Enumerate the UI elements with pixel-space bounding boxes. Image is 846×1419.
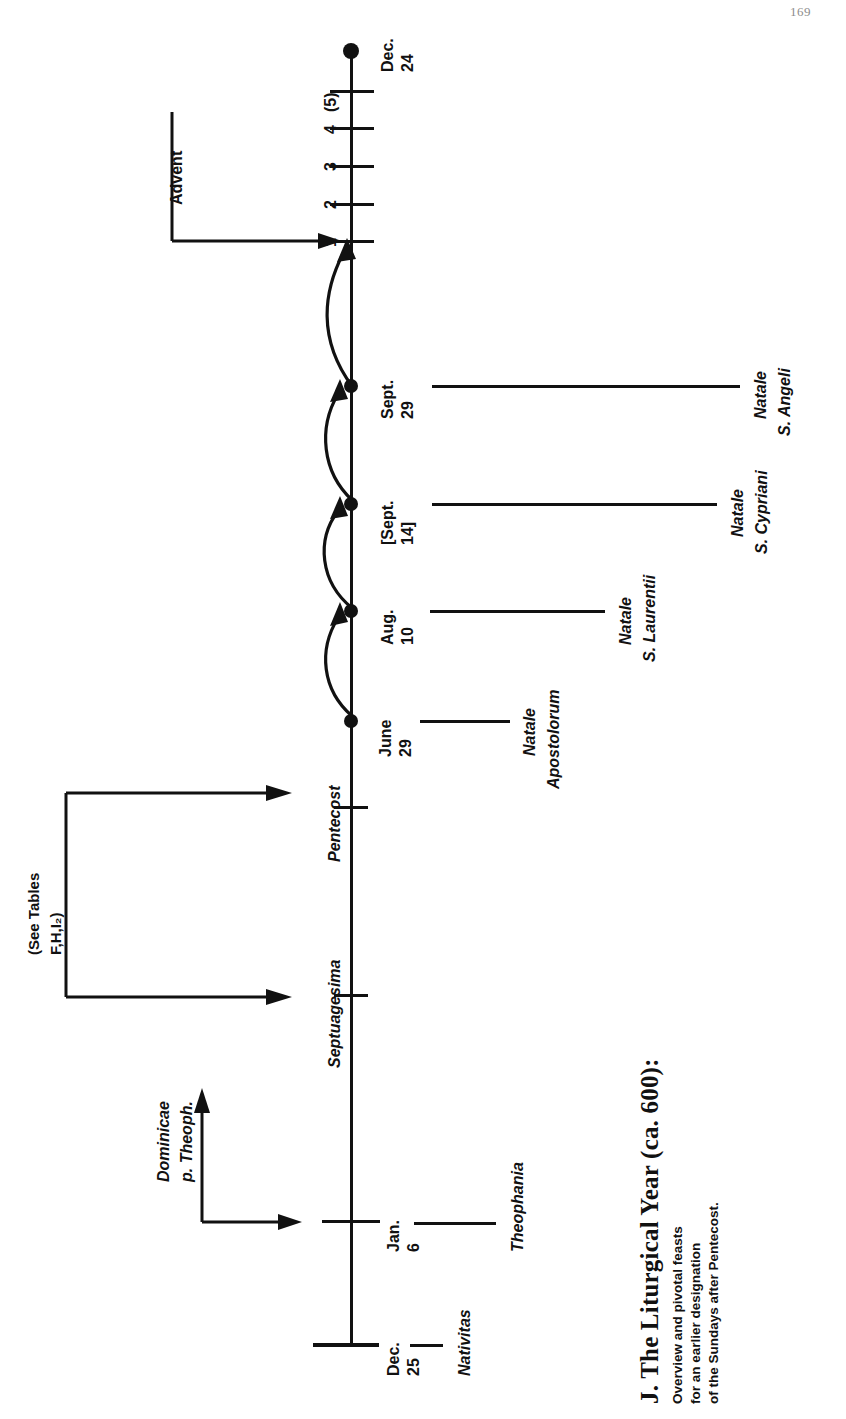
feast-label-sept29-line1: Natale — [752, 371, 770, 419]
curve-sept29-advent — [327, 250, 352, 386]
feast-label-jan6: Theophania — [509, 1162, 527, 1252]
curve-sept14-sept29 — [326, 394, 352, 500]
feast-label-sept14-line2: S. Cypriani — [753, 470, 771, 554]
dominicae-label-line1: Dominicae — [155, 1101, 173, 1182]
advent-tick-label-4: 4 — [322, 125, 340, 134]
node-date-sept29-line2: 29 — [399, 401, 417, 419]
leader-line-sept14 — [432, 503, 717, 506]
node-date-sept14-line2: 14] — [399, 522, 417, 545]
figure-caption-subtitle-line2: for an earlier designation — [687, 1058, 705, 1404]
feast-label-dec25: Nativitas — [456, 1309, 474, 1376]
node-date-june29-line1: June — [377, 720, 395, 757]
node-date-dec24-line2: 24 — [399, 54, 417, 72]
node-date-aug10-line2: 10 — [399, 627, 417, 645]
leader-line-jan6 — [414, 1222, 496, 1225]
figure-caption-subtitle-line3: of the Sundays after Pentecost. — [705, 1058, 723, 1404]
node-marker-sept14 — [344, 497, 358, 511]
node-date-septuagesima: Septuagesima — [326, 960, 344, 1068]
leader-line-dec25 — [410, 1344, 443, 1347]
node-date-jan6-line2: 6 — [405, 1243, 423, 1252]
leader-line-june29 — [420, 720, 510, 723]
tick-jan6 — [322, 1220, 380, 1223]
advent-tick-label-2: 2 — [322, 200, 340, 209]
node-date-dec24-line1: Dec. — [379, 38, 397, 72]
advent-tick-label-5: (5) — [322, 92, 340, 112]
figure-caption-subtitle-line1: Overview and pivotal feasts — [669, 1058, 687, 1404]
pentecost-arrowhead — [266, 785, 292, 801]
advent-tick-label-3: 3 — [322, 162, 340, 171]
figure-caption: J. The Liturgical Year (ca. 600): Overvi… — [636, 1058, 722, 1404]
node-date-sept14-line1: [Sept. — [379, 501, 397, 545]
dominicae-label-line2: p. Theoph. — [178, 1101, 196, 1182]
leader-line-aug10 — [430, 610, 605, 613]
tick-dec25 — [313, 1343, 379, 1347]
timeline-axis — [350, 50, 353, 1345]
node-date-pentecost: Pentecost — [326, 786, 344, 862]
figure-caption-subtitle: Overview and pivotal feasts for an earli… — [669, 1058, 722, 1404]
see-tables-label-line1: (See Tables — [26, 873, 43, 955]
leader-line-sept29 — [432, 385, 740, 388]
node-marker-june29 — [344, 714, 358, 728]
node-marker-dec24 — [343, 43, 359, 59]
feast-label-aug10-line2: S. Laurentii — [641, 575, 659, 662]
dominicae-arrowhead-up — [194, 1088, 210, 1113]
feast-label-june29-line1: Natale — [521, 708, 539, 756]
figure-caption-title: J. The Liturgical Year (ca. 600): — [636, 1058, 664, 1404]
node-date-dec25-line1: Dec. — [385, 1342, 403, 1376]
node-date-sept29-line1: Sept. — [379, 380, 397, 419]
page-number: 169 — [790, 4, 811, 20]
see-tables-label-line2: F,H,I₂) — [48, 913, 65, 956]
see-tables-label-paren: ) — [47, 913, 64, 918]
label-advent: Advent — [168, 151, 186, 205]
feast-label-june29-line2: Apostolorum — [545, 689, 563, 789]
septuagesima-arrowhead — [266, 989, 292, 1005]
feast-label-sept29-line2: S. Angeli — [776, 368, 794, 436]
see-tables-label-tables: F,H,I₂ — [47, 918, 64, 956]
node-date-june29-line2: 29 — [397, 739, 415, 757]
feast-label-sept14-line1: Natale — [729, 489, 747, 537]
node-marker-sept29 — [344, 379, 358, 393]
curve-june29-aug10 — [326, 618, 352, 716]
dominicae-arrowhead-right — [278, 1214, 302, 1230]
curve-aug10-sept14 — [324, 511, 352, 608]
node-date-dec25-line2: 25 — [405, 1358, 423, 1376]
node-marker-aug10 — [344, 604, 358, 618]
feast-label-aug10-line1: Natale — [617, 597, 635, 645]
advent-tick-label-1: 1 — [322, 238, 340, 247]
node-date-jan6-line1: Jan. — [385, 1220, 403, 1252]
node-date-aug10-line1: Aug. — [379, 609, 397, 645]
